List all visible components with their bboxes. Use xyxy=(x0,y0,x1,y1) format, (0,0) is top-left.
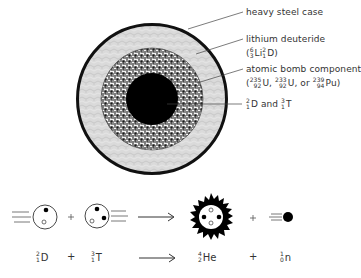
atomic-number: 1 xyxy=(36,257,40,263)
element-symbol: U xyxy=(262,78,269,88)
isotope-numbers: 31 xyxy=(281,98,285,110)
formula-fissile-materials: ( 23592 U , 23392 U , or 23994 Pu ) xyxy=(246,77,340,89)
isotope-numbers: 21 xyxy=(36,251,40,263)
equation-helium: 42 He xyxy=(198,251,217,263)
isotope-numbers: 23392 xyxy=(275,77,287,89)
equation-neutron: 10 n xyxy=(280,251,291,263)
label-heavy-steel-case: heavy steel case xyxy=(246,7,323,17)
atomic-number: 94 xyxy=(317,83,325,89)
atomic-number: 1 xyxy=(246,104,250,110)
isotope-numbers: 31 xyxy=(91,251,95,263)
deuterium-tritium-core xyxy=(126,73,178,125)
isotope-numbers: 10 xyxy=(280,251,284,263)
bomb-cross-section xyxy=(78,25,227,174)
label-lithium-deuteride: lithium deuteride xyxy=(246,34,325,44)
formula-lithium-deuteride: ( 63 Li 21 D ) xyxy=(246,47,278,59)
conjunction: and xyxy=(258,99,281,109)
element-symbol: He xyxy=(203,252,217,263)
atomic-number: 1 xyxy=(281,104,285,110)
atomic-number: 1 xyxy=(91,257,95,263)
label-atomic-bomb-component: atomic bomb component xyxy=(246,64,361,74)
isotope-numbers: 42 xyxy=(198,251,202,263)
element-symbol: D xyxy=(267,48,274,58)
isotope-numbers: 21 xyxy=(246,98,250,110)
atomic-number: 92 xyxy=(254,83,262,89)
reaction-arrow-icon xyxy=(138,213,174,221)
tritium-nucleus-icon xyxy=(85,204,128,228)
paren-close: ) xyxy=(274,48,278,58)
atomic-number: 1 xyxy=(262,53,266,59)
equation-plus-1: + xyxy=(67,251,75,262)
element-symbol: T xyxy=(286,99,292,109)
atomic-number: 0 xyxy=(280,257,284,263)
separator: , or xyxy=(294,78,312,88)
atomic-number: 3 xyxy=(250,53,254,59)
deuterium-nucleus-icon xyxy=(12,205,57,229)
atomic-number: 92 xyxy=(279,83,287,89)
atomic-number: 2 xyxy=(198,257,202,263)
element-symbol: Li xyxy=(255,48,263,58)
paren-close: ) xyxy=(337,78,341,88)
helium-nucleus-icon xyxy=(190,193,233,240)
neutron-icon xyxy=(269,212,293,222)
element-symbol: U xyxy=(288,78,295,88)
isotope-numbers: 21 xyxy=(262,47,266,59)
equation-deuterium: 21 D xyxy=(36,251,49,263)
element-symbol: n xyxy=(285,252,291,263)
label-deuterium-and-tritium: 21 D and 31 T xyxy=(246,98,292,110)
isotope-numbers: 63 xyxy=(250,47,254,59)
element-symbol: D xyxy=(41,252,49,263)
isotope-numbers: 23592 xyxy=(250,77,262,89)
isotope-numbers: 23994 xyxy=(313,77,325,89)
element-symbol: D xyxy=(251,99,258,109)
element-symbol: Pu xyxy=(326,78,337,88)
equation-arrow-icon xyxy=(139,254,175,262)
equation-tritium: 31 T xyxy=(91,251,102,263)
equation-plus-2: + xyxy=(249,251,257,262)
element-symbol: T xyxy=(96,252,102,263)
leader-line-case xyxy=(188,12,243,29)
